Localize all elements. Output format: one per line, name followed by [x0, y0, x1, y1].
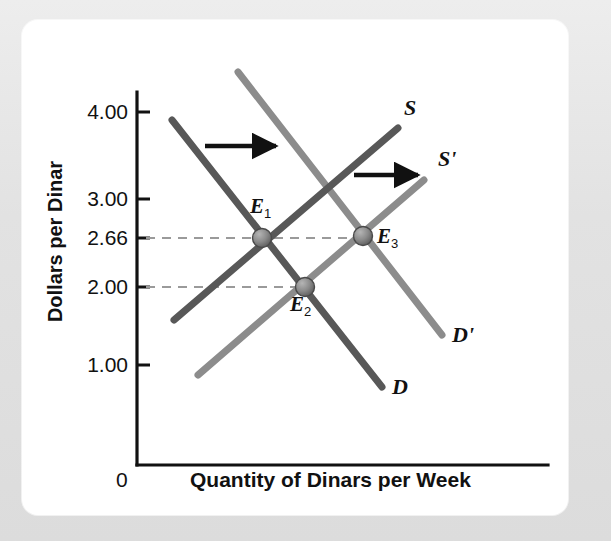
equilibrium-point-E1 [253, 229, 272, 248]
y-tick-label-4: 4.00 [44, 100, 128, 124]
figure-page: 4.00 3.00 2.66 2.00 1.00 Dollars per Din… [0, 0, 611, 541]
equilibrium-label-E3: E3 [377, 224, 398, 251]
supply-shifted-curve-label: S' [438, 146, 456, 172]
y-axis-title: Dollars per Dinar [44, 132, 67, 352]
equilibrium-label-E2: E2 [290, 292, 311, 319]
supply-curve-label: S [404, 95, 416, 121]
axis-lines [137, 92, 548, 465]
equilibrium-letter-E1: E [250, 194, 264, 218]
equilibrium-subscript-E1: 1 [264, 206, 271, 221]
x-axis-title: Quantity of Dinars per Week [190, 468, 471, 492]
equilibrium-letter-E3: E [377, 224, 391, 248]
origin-label: 0 [116, 468, 128, 492]
equilibrium-label-E1: E1 [250, 194, 271, 221]
supply-curve-S-prime [198, 180, 424, 375]
supply-curve-S [174, 128, 398, 320]
equilibrium-letter-E2: E [290, 292, 304, 316]
supply-demand-chart [0, 0, 611, 541]
demand-curve-label: D [392, 374, 408, 400]
equilibrium-subscript-E2: 2 [304, 304, 311, 319]
y-tick-label-1: 1.00 [44, 353, 128, 377]
demand-curve-D [172, 120, 382, 387]
equilibrium-subscript-E3: 3 [391, 236, 398, 251]
equilibrium-point-E3 [354, 227, 373, 246]
demand-shifted-curve-label: D' [452, 322, 474, 348]
curves [172, 72, 442, 387]
